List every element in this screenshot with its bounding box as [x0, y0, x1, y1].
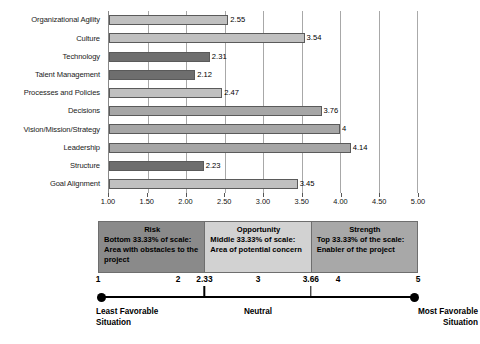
category-label: Structure — [0, 157, 104, 175]
bar: 3.45 — [109, 179, 298, 189]
bar-chart: Organizational AgilityCultureTechnologyT… — [0, 0, 458, 212]
scale-line — [101, 296, 415, 298]
bar-row: 2.31 — [109, 47, 417, 65]
bar-row: 3.76 — [109, 102, 417, 120]
bar-row: 2.12 — [109, 66, 417, 84]
scale-number: 5 — [416, 275, 421, 283]
scale-number-labels: 122.3333.6645 — [98, 275, 418, 287]
bar-row: 3.45 — [109, 175, 417, 193]
category-label: Processes and Policies — [0, 84, 104, 102]
bar: 3.54 — [109, 33, 305, 43]
bar-series: 2.553.542.312.122.473.7644.142.233.45 — [109, 11, 417, 193]
bar-row: 4.14 — [109, 138, 417, 156]
bar-value-label: 2.55 — [230, 16, 245, 24]
bar: 2.31 — [109, 52, 210, 62]
favorability-scale: 122.3333.6645 Least FavorableSituation N… — [98, 275, 418, 344]
legend-segment: StrengthTop 33.33% of the scale: Enabler… — [312, 222, 417, 272]
bar: 2.12 — [109, 70, 195, 80]
bar: 3.76 — [109, 106, 322, 116]
scale-number: 3 — [256, 275, 261, 283]
category-axis-labels: Organizational AgilityCultureTechnologyT… — [0, 11, 104, 193]
bar-value-label: 2.12 — [197, 71, 212, 79]
x-axis-tick-label: 5.00 — [411, 198, 425, 205]
x-axis-tick-label: 4.00 — [333, 198, 347, 205]
scale-number: 1 — [96, 275, 101, 283]
scale-legend: RiskBottom 33.33% of scale: Area with ob… — [98, 221, 418, 273]
scale-number: 2.33 — [196, 275, 212, 283]
x-axis-tick-labels: 1.001.502.002.503.003.504.004.505.00 — [108, 198, 418, 210]
x-axis-tick-label: 4.50 — [372, 198, 386, 205]
category-label: Goal Alignment — [0, 175, 104, 193]
category-label: Technology — [0, 47, 104, 65]
plot-area: 2.553.542.312.122.473.7644.142.233.45 — [108, 11, 418, 193]
category-label: Decisions — [0, 102, 104, 120]
category-label: Culture — [0, 29, 104, 47]
scale-left-endpoint-icon — [97, 293, 106, 302]
scale-number: 2 — [176, 275, 181, 283]
bar-row: 3.54 — [109, 29, 417, 47]
bar-value-label: 3.45 — [300, 180, 315, 188]
bar: 2.55 — [109, 15, 228, 25]
x-axis-tick-label: 1.50 — [140, 198, 154, 205]
bar-value-label: 2.47 — [224, 89, 239, 97]
scale-tick — [204, 286, 205, 297]
bar-value-label: 3.76 — [324, 107, 339, 115]
scale-caption-right: Most FavorableSituation — [36, 307, 478, 328]
scale-captions: Least FavorableSituation Neutral Most Fa… — [36, 307, 480, 339]
bar-value-label: 4.14 — [353, 144, 368, 152]
scale-number: 4 — [336, 275, 341, 283]
x-axis-tick-label: 1.00 — [101, 198, 115, 205]
x-axis-tick-label: 2.00 — [178, 198, 192, 205]
bar: 2.47 — [109, 88, 222, 98]
bar-value-label: 2.23 — [206, 162, 221, 170]
category-label: Leadership — [0, 138, 104, 156]
legend-segment-title: Strength — [317, 225, 413, 234]
legend-segment-title: Opportunity — [210, 225, 306, 234]
bar-row: 4 — [109, 120, 417, 138]
x-axis-tick-label: 2.50 — [217, 198, 231, 205]
scale-tick — [310, 286, 311, 297]
bar-row: 2.55 — [109, 11, 417, 29]
category-label: Vision/Mission/Strategy — [0, 120, 104, 138]
bar: 4.14 — [109, 143, 351, 153]
bar: 4 — [109, 124, 340, 134]
bar-row: 2.47 — [109, 84, 417, 102]
category-label: Talent Management — [0, 66, 104, 84]
category-label: Organizational Agility — [0, 11, 104, 29]
scale-right-endpoint-icon — [410, 293, 419, 302]
scale-axis-line — [98, 291, 418, 303]
bar-value-label: 4 — [342, 126, 346, 134]
legend-segment-description: Middle 33.33% of scale: Area of potentia… — [210, 235, 306, 255]
x-axis-tick-label: 3.00 — [256, 198, 270, 205]
bar-value-label: 3.54 — [307, 35, 322, 43]
legend-segment: OpportunityMiddle 33.33% of scale: Area … — [205, 222, 311, 272]
bar: 2.23 — [109, 161, 204, 171]
scale-number: 3.66 — [303, 275, 319, 283]
legend-segment-title: Risk — [104, 225, 200, 234]
bar-row: 2.23 — [109, 157, 417, 175]
legend-segment-description: Top 33.33% of the scale: Enabler of the … — [317, 235, 413, 255]
bar-value-label: 2.31 — [212, 53, 227, 61]
legend-segment-description: Bottom 33.33% of scale: Area with obstac… — [104, 235, 200, 265]
legend-segment: RiskBottom 33.33% of scale: Area with ob… — [99, 222, 205, 272]
x-axis-tick-label: 3.50 — [295, 198, 309, 205]
